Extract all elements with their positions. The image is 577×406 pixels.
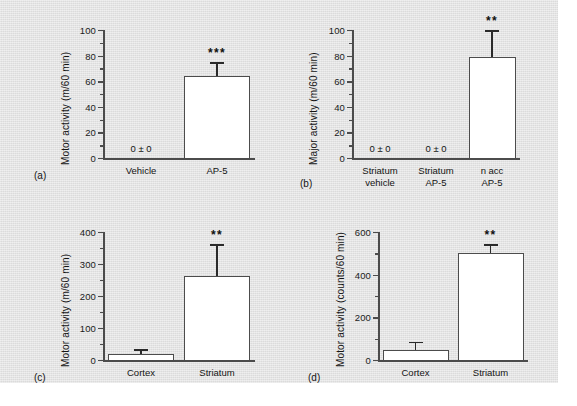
- y-tick-label: 600: [355, 227, 371, 238]
- y-tick-label: 0: [366, 355, 371, 366]
- x-tick-label: Cortex: [402, 367, 430, 379]
- plot-area: 0200400600**: [378, 232, 528, 360]
- x-tick-label: Striatum: [473, 367, 508, 379]
- error-bar-cap: [484, 244, 498, 246]
- x-tick-label-line: Striatum: [473, 367, 508, 379]
- y-tick-minor: [375, 253, 378, 254]
- y-tick-label: 400: [355, 269, 371, 280]
- y-tick-label: 200: [355, 312, 371, 323]
- bar: [458, 253, 524, 360]
- y-tick-major: [373, 232, 378, 233]
- panel-letter: (d): [308, 372, 320, 383]
- bar: [383, 350, 449, 360]
- y-axis-line: [378, 232, 380, 360]
- y-tick-minor: [375, 296, 378, 297]
- y-tick-minor: [375, 339, 378, 340]
- significance-marker: **: [484, 228, 496, 242]
- panel-m-3: CortexStriatum0200400600**Motor activity…: [0, 0, 558, 383]
- x-axis-line: [378, 360, 528, 362]
- y-axis-label: Motor activity (counts/60 min): [335, 232, 346, 367]
- y-tick-major: [373, 275, 378, 276]
- x-tick-label-line: Cortex: [402, 367, 430, 379]
- error-bar-cap: [409, 342, 423, 344]
- y-tick-major: [373, 360, 378, 361]
- y-tick-major: [373, 317, 378, 318]
- figure-canvas: VehicleAP-50204060801000 ± 0***Motor act…: [0, 0, 558, 383]
